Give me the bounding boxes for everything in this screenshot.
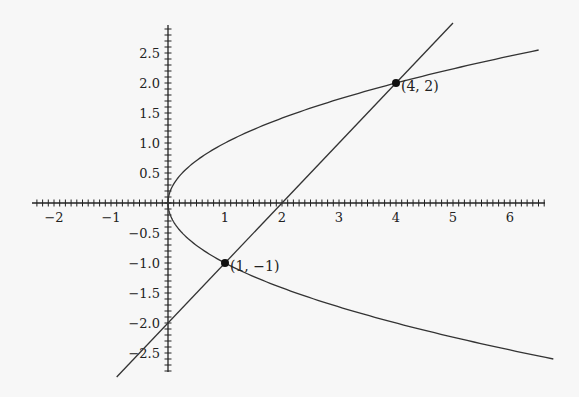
y-tick-label: 2.0 <box>139 76 160 91</box>
x-tick-label: 6 <box>506 210 514 225</box>
y-tick-label: −1.5 <box>128 286 160 301</box>
curves <box>117 23 554 377</box>
line-curve <box>117 23 453 377</box>
x-tick-label: −2 <box>44 210 63 225</box>
y-tick-label: −2.0 <box>128 316 160 331</box>
y-tick-label: −0.5 <box>128 226 160 241</box>
plot-area: −2−11234562.52.01.51.00.5−0.5−1.0−1.5−2.… <box>0 0 579 397</box>
chart-svg: −2−11234562.52.01.51.00.5−0.5−1.0−1.5−2.… <box>0 0 579 397</box>
y-tick-label: −1.0 <box>128 256 160 271</box>
x-tick-label: −1 <box>101 210 120 225</box>
intersection-point <box>392 79 400 87</box>
y-tick-label: 1.5 <box>139 106 160 121</box>
parabola-curve <box>168 50 553 359</box>
y-tick-label: 1.0 <box>139 136 160 151</box>
point-label: (1, −1) <box>230 258 279 274</box>
x-tick-label: 2 <box>278 210 286 225</box>
y-tick-label: 2.5 <box>139 46 160 61</box>
intersection-points: (4, 2)(1, −1) <box>221 78 439 274</box>
point-label: (4, 2) <box>401 78 439 94</box>
axes: −2−11234562.52.01.51.00.5−0.5−1.0−1.5−2.… <box>32 25 545 372</box>
y-tick-label: 0.5 <box>139 166 160 181</box>
x-tick-label: 1 <box>221 210 229 225</box>
x-tick-label: 4 <box>392 210 400 225</box>
x-tick-label: 3 <box>335 210 343 225</box>
intersection-point <box>221 259 229 267</box>
x-tick-label: 5 <box>449 210 457 225</box>
